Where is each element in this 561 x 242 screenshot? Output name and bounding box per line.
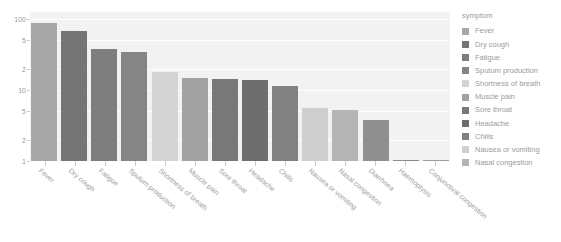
x-tick-mark bbox=[45, 161, 46, 166]
legend-swatch-icon bbox=[462, 54, 469, 61]
x-tick-label: Sore throat bbox=[218, 167, 249, 195]
legend-swatch-icon bbox=[462, 67, 469, 74]
x-tick-label: Fever bbox=[38, 167, 56, 184]
legend-item[interactable]: Shortness of breath bbox=[462, 77, 561, 90]
legend-items: FeverDry coughFatigueSputum productionSh… bbox=[462, 25, 561, 170]
legend-item[interactable]: Fever bbox=[462, 25, 561, 38]
y-tick-label: 1 bbox=[22, 158, 26, 165]
legend-swatch-icon bbox=[462, 146, 469, 153]
legend-label: Sore throat bbox=[475, 106, 512, 114]
legend-item[interactable]: Sputum production bbox=[462, 64, 561, 77]
x-tick-mark bbox=[105, 161, 106, 166]
x-tick-label: Headache bbox=[248, 167, 277, 193]
legend-swatch-icon bbox=[462, 159, 469, 166]
bar[interactable] bbox=[212, 79, 238, 161]
legend-label: Sputum production bbox=[475, 67, 538, 75]
bar-series bbox=[30, 12, 450, 161]
legend-swatch-icon bbox=[462, 80, 469, 87]
x-tick-mark bbox=[375, 161, 376, 166]
bar[interactable] bbox=[182, 78, 208, 161]
legend-item[interactable]: Muscle pain bbox=[462, 90, 561, 103]
x-tick-mark bbox=[225, 161, 226, 166]
bar[interactable] bbox=[61, 31, 87, 161]
legend-label: Headache bbox=[475, 120, 509, 128]
legend-label: Dry cough bbox=[475, 41, 509, 49]
legend-item[interactable]: Nasal congestion bbox=[462, 156, 561, 169]
y-tick-label: 5 bbox=[22, 37, 26, 44]
legend-label: Shortness of breath bbox=[475, 80, 540, 88]
bar[interactable] bbox=[363, 120, 389, 161]
bar[interactable] bbox=[31, 23, 57, 161]
legend-swatch-icon bbox=[462, 41, 469, 48]
bar[interactable] bbox=[332, 110, 358, 161]
legend-label: Fatigue bbox=[475, 54, 500, 62]
legend-swatch-icon bbox=[462, 120, 469, 127]
y-tick-label: 10 bbox=[18, 87, 26, 94]
legend-label: Fever bbox=[475, 27, 494, 35]
bar[interactable] bbox=[121, 52, 147, 161]
x-tick-mark bbox=[345, 161, 346, 166]
x-tick-mark bbox=[315, 161, 316, 166]
x-tick-mark bbox=[435, 161, 436, 166]
legend-item[interactable]: Headache bbox=[462, 117, 561, 130]
x-tick-mark bbox=[255, 161, 256, 166]
legend-item[interactable]: Chills bbox=[462, 130, 561, 143]
legend-item[interactable]: Dry cough bbox=[462, 38, 561, 51]
x-tick-mark bbox=[75, 161, 76, 166]
legend-swatch-icon bbox=[462, 133, 469, 140]
x-axis-labels: FeverDry coughFatigueSputum productionSh… bbox=[30, 167, 490, 242]
legend-label: Chills bbox=[475, 133, 493, 141]
bar[interactable] bbox=[91, 49, 117, 161]
x-tick-mark bbox=[405, 161, 406, 166]
x-tick-mark bbox=[165, 161, 166, 166]
x-tick-label: Dry cough bbox=[68, 167, 97, 193]
chart-root: 1005210521 FeverDry coughFatigueSputum p… bbox=[0, 0, 561, 242]
legend-swatch-icon bbox=[462, 94, 469, 101]
x-tick-mark bbox=[135, 161, 136, 166]
x-tick-mark bbox=[285, 161, 286, 166]
y-tick-label: 100 bbox=[14, 16, 26, 23]
legend-label: Nasal congestion bbox=[475, 159, 533, 167]
legend-item[interactable]: Nausea or vomiting bbox=[462, 143, 561, 156]
legend-item[interactable]: Fatigue bbox=[462, 51, 561, 64]
x-tick-mark bbox=[195, 161, 196, 166]
y-tick-label: 2 bbox=[22, 65, 26, 72]
legend-item[interactable]: Sore throat bbox=[462, 104, 561, 117]
legend-label: Nausea or vomiting bbox=[475, 146, 540, 154]
y-axis: 1005210521 bbox=[0, 0, 30, 173]
x-tick-label: Diarrhoea bbox=[368, 167, 396, 192]
bar[interactable] bbox=[242, 80, 268, 161]
legend-swatch-icon bbox=[462, 28, 469, 35]
legend-title: symptom bbox=[462, 12, 561, 20]
bar[interactable] bbox=[152, 72, 178, 161]
x-tick-label: Chills bbox=[278, 167, 296, 183]
x-tick-label: Fatigue bbox=[98, 167, 120, 187]
legend-label: Muscle pain bbox=[475, 93, 515, 101]
bar[interactable] bbox=[302, 108, 328, 161]
legend: symptom FeverDry coughFatigueSputum prod… bbox=[462, 12, 561, 187]
y-tick-label: 2 bbox=[22, 136, 26, 143]
legend-swatch-icon bbox=[462, 107, 469, 114]
bar[interactable] bbox=[272, 86, 298, 161]
y-tick-label: 5 bbox=[22, 108, 26, 115]
